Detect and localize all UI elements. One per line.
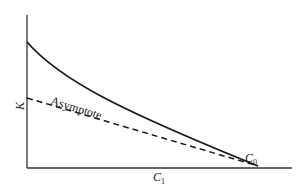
x-axis-label: C 1 [153, 170, 165, 186]
y-axis-label: K [13, 101, 27, 111]
endpoint-c0-label: C 0 [245, 151, 257, 167]
svg-text:0: 0 [253, 158, 257, 167]
svg-text:1: 1 [161, 177, 165, 186]
asymptote-label: Asymptote [49, 93, 103, 122]
diagram-canvas: Asymptote K C 1 C 0 [0, 0, 301, 190]
